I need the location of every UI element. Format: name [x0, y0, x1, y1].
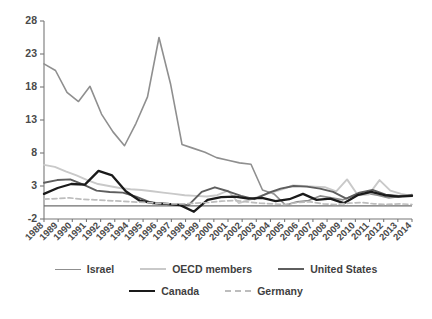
legend-item[interactable]: United States: [278, 264, 377, 275]
y-tick-label: 28: [25, 14, 37, 26]
y-tick-labels: 2823181383-2: [25, 14, 37, 224]
chart-legend: IsraelOECD membersUnited States CanadaGe…: [0, 258, 432, 302]
legend-label: Israel: [87, 264, 114, 275]
series-line-germany: [44, 198, 412, 205]
y-tick-label: 23: [25, 47, 37, 59]
legend-swatch-icon: [140, 268, 166, 270]
legend-item[interactable]: OECD members: [140, 264, 252, 275]
legend-item[interactable]: Canada: [129, 286, 199, 297]
legend-item[interactable]: Germany: [225, 286, 303, 297]
series-line-israel: [44, 38, 412, 206]
y-tick-label: 13: [25, 113, 37, 125]
legend-row-secondary: CanadaGermany: [0, 280, 432, 302]
legend-label: Germany: [257, 286, 303, 297]
legend-item[interactable]: Israel: [55, 264, 114, 275]
y-axis-group: 2823181383-2: [25, 14, 44, 224]
legend-swatch-icon: [225, 290, 251, 292]
series-lines: [44, 38, 412, 212]
legend-row-primary: IsraelOECD membersUnited States: [0, 258, 432, 280]
y-tick-marks: [40, 21, 44, 219]
chart-svg: 2823181383-2 198819891990199119921993199…: [0, 0, 432, 248]
y-tick-label: 18: [25, 80, 37, 92]
legend-swatch-icon: [55, 269, 81, 270]
y-tick-label: 8: [31, 146, 37, 158]
line-chart: 2823181383-2 198819891990199119921993199…: [0, 0, 432, 319]
x-axis-group: 1988198919901991199219931994199519961997…: [23, 219, 414, 242]
legend-label: Canada: [161, 286, 199, 297]
legend-swatch-icon: [129, 290, 155, 292]
y-tick-label: 3: [31, 179, 37, 191]
x-tick-labels: 1988198919901991199219931994199519961997…: [23, 219, 414, 242]
legend-label: United States: [310, 264, 377, 275]
legend-label: OECD members: [172, 264, 252, 275]
plot-area: 2823181383-2 198819891990199119921993199…: [0, 0, 432, 240]
legend-swatch-icon: [278, 268, 304, 270]
